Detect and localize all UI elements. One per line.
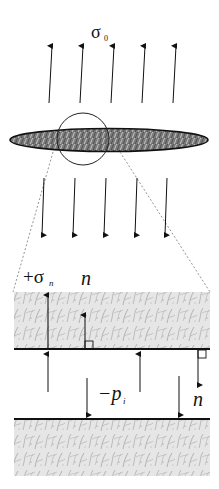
normal-vector-label-upper: n xyxy=(81,267,91,289)
arrow-down-icon xyxy=(135,178,137,235)
upper-block xyxy=(14,292,210,349)
arrow-up-icon xyxy=(111,46,114,103)
sigma-subscript: 0 xyxy=(104,34,108,43)
arrow-down-icon xyxy=(73,178,75,235)
arrow-down-icon xyxy=(165,178,167,235)
sigma-n-subscript: n xyxy=(49,278,54,288)
normal-stress-label: +σ n xyxy=(23,266,54,288)
diagram-canvas: σ 0 +σ n n n xyxy=(0,0,219,489)
arrow-up-icon xyxy=(49,46,52,103)
p-i-subscript: i xyxy=(123,396,126,406)
arrow-up-icon xyxy=(173,46,176,103)
sigma-symbol: σ xyxy=(91,22,101,42)
arrow-down-icon xyxy=(42,178,44,235)
arrow-up-icon xyxy=(80,46,83,103)
far-field-tension-arrows xyxy=(49,46,176,103)
normal-vector-label-lower: n xyxy=(193,388,203,410)
lower-block xyxy=(14,419,210,476)
right-angle-icon xyxy=(198,350,206,358)
minus-p: −p xyxy=(98,382,122,405)
far-field-down-arrows xyxy=(42,178,167,235)
plus-sigma: +σ xyxy=(23,266,44,287)
arrow-up-icon xyxy=(142,46,145,103)
internal-pressure-label: −p i xyxy=(98,382,126,406)
far-field-stress-label: σ 0 xyxy=(91,22,108,43)
arrow-down-icon xyxy=(104,178,106,235)
